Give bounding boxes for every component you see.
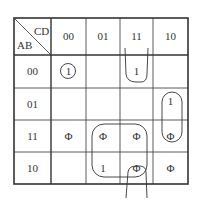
row-header: 00	[14, 66, 51, 77]
col-header: 00	[51, 31, 86, 42]
cell: Φ	[120, 163, 153, 174]
row-header: 10	[14, 163, 51, 174]
cell: Φ	[86, 131, 120, 142]
row-header: 11	[14, 131, 51, 142]
cell: 1	[120, 66, 153, 77]
row-header: 01	[14, 99, 51, 110]
cell: 1	[86, 163, 120, 174]
col-header: 10	[153, 31, 188, 42]
cell: 1	[153, 96, 188, 107]
cell: Φ	[153, 163, 188, 174]
col-header: 01	[86, 31, 120, 42]
cell: 1	[51, 66, 86, 77]
cell: Φ	[153, 131, 188, 142]
row-var-label: AB	[17, 40, 32, 51]
col-var-label: CD	[34, 26, 49, 37]
cell: Φ	[120, 131, 153, 142]
cell: Φ	[51, 131, 86, 142]
col-header: 11	[120, 31, 153, 42]
